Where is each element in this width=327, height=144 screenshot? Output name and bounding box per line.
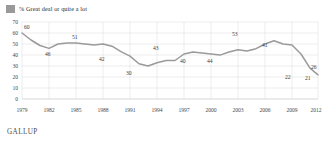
x-tick-1988: 1988	[97, 107, 108, 113]
data-point-labels: 60 46 51 42 30 43 40 44 53 41 22 21 26	[24, 24, 317, 81]
point-label-1985: 51	[72, 34, 78, 40]
x-tick-1994: 1994	[151, 107, 162, 113]
point-label-1979: 60	[24, 24, 30, 30]
y-axis-tick-labels: 70 60 50 40 30 20 10 0	[12, 19, 18, 102]
y-tick-20: 20	[12, 74, 18, 80]
point-label-2012: 21	[305, 75, 311, 81]
point-label-1988: 42	[99, 56, 105, 62]
x-tick-2012: 2012	[310, 107, 321, 113]
point-label-2000: 44	[207, 58, 213, 64]
source-attribution: GALLUP	[7, 128, 38, 136]
x-tick-1991: 1991	[124, 107, 135, 113]
point-label-1994: 43	[153, 45, 159, 51]
x-tick-2000: 2000	[205, 107, 216, 113]
point-label-1982: 46	[45, 51, 51, 57]
y-tick-70: 70	[12, 19, 18, 25]
x-axis-tick-labels: 1979 1982 1985 1988 1991 1994 1997 2000 …	[16, 107, 321, 113]
y-tick-10: 10	[12, 85, 18, 91]
plot-area: 70 60 50 40 30 20 10 0 60 46 51 42 30 43…	[0, 17, 327, 117]
point-label-1991: 30	[126, 70, 132, 76]
y-tick-40: 40	[12, 52, 18, 58]
gallup-line-chart: % Great deal or quite a lot	[0, 0, 327, 144]
y-tick-30: 30	[12, 63, 18, 69]
y-tick-50: 50	[12, 41, 18, 47]
x-tick-2003: 2003	[232, 107, 243, 113]
point-label-1997: 40	[180, 58, 186, 64]
x-tick-1979: 1979	[16, 107, 27, 113]
series-line	[22, 33, 318, 75]
point-label-2006: 41	[262, 42, 268, 48]
x-tick-1997: 1997	[178, 107, 189, 113]
y-tick-60: 60	[12, 30, 18, 36]
chart-legend: % Great deal or quite a lot	[6, 3, 87, 14]
point-label-2014: 26	[311, 64, 317, 70]
legend-square-swatch-icon	[6, 5, 15, 13]
x-tick-1982: 1982	[43, 107, 54, 113]
point-label-2003: 53	[232, 31, 238, 37]
x-tick-2006: 2006	[259, 107, 270, 113]
x-tick-2009: 2009	[286, 107, 297, 113]
chart-svg: 70 60 50 40 30 20 10 0 60 46 51 42 30 43…	[0, 17, 327, 117]
point-label-2009: 22	[285, 74, 291, 80]
y-tick-0: 0	[15, 96, 18, 102]
legend-label: % Great deal or quite a lot	[19, 5, 87, 13]
x-tick-1985: 1985	[70, 107, 81, 113]
